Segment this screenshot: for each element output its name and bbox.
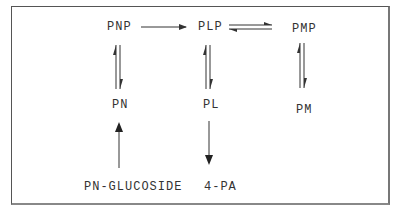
- arrow-glucoside-to-pn-icon: [115, 122, 123, 168]
- arrow-pmp-pm-reversible-icon: [297, 43, 307, 88]
- arrow-plp-pmp-reversible-icon: [229, 22, 272, 32]
- arrow-pl-to-4pa-icon: [205, 121, 213, 165]
- arrow-pnp-pn-reversible-icon: [113, 45, 123, 89]
- arrows-layer: [0, 0, 398, 216]
- arrow-plp-pl-reversible-icon: [203, 45, 213, 89]
